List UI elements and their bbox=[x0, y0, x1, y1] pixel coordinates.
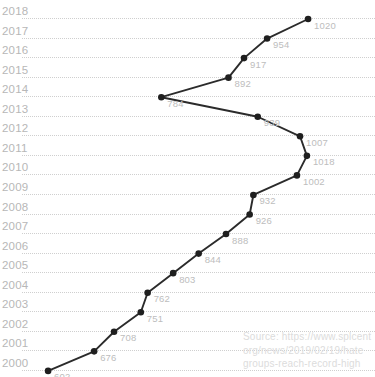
value-label-2017: 954 bbox=[273, 40, 289, 50]
grid-row-2016: 2016 bbox=[0, 38, 375, 58]
hate-groups-line-chart: 2018201720162015201420132012201120102009… bbox=[0, 0, 375, 377]
value-label-2000: 602 bbox=[54, 372, 70, 377]
value-label-2012: 1007 bbox=[306, 138, 328, 148]
year-label-2017: 2017 bbox=[2, 25, 28, 37]
year-label-2015: 2015 bbox=[2, 64, 28, 76]
value-label-2001: 676 bbox=[100, 353, 116, 363]
value-label-2007: 888 bbox=[232, 236, 248, 246]
grid-row-2003: 2003 bbox=[0, 292, 375, 312]
grid-row-2008: 2008 bbox=[0, 195, 375, 215]
grid-row-2007: 2007 bbox=[0, 214, 375, 234]
year-label-2011: 2011 bbox=[2, 142, 28, 154]
value-label-2014: 784 bbox=[167, 99, 183, 109]
year-label-2018: 2018 bbox=[2, 5, 28, 17]
grid-row-2005: 2005 bbox=[0, 253, 375, 273]
grid-row-2002: 2002 bbox=[0, 312, 375, 332]
value-label-2003: 751 bbox=[147, 314, 163, 324]
year-label-2005: 2005 bbox=[2, 259, 28, 271]
year-label-2003: 2003 bbox=[2, 298, 28, 310]
source-line-2: org/news/2019/02/19/hate bbox=[243, 344, 375, 358]
grid-row-2012: 2012 bbox=[0, 116, 375, 136]
year-label-2004: 2004 bbox=[2, 279, 28, 291]
grid-row-2018: 2018 bbox=[0, 0, 375, 19]
year-label-2009: 2009 bbox=[2, 181, 28, 193]
value-label-2018: 1020 bbox=[314, 21, 336, 31]
year-label-2016: 2016 bbox=[2, 44, 28, 56]
value-label-2015: 892 bbox=[235, 79, 251, 89]
year-label-2007: 2007 bbox=[2, 220, 28, 232]
source-line-3: groups-reach-record-high bbox=[243, 357, 375, 371]
grid-row-2013: 2013 bbox=[0, 97, 375, 117]
value-label-2006: 844 bbox=[205, 255, 221, 265]
year-label-2014: 2014 bbox=[2, 83, 28, 95]
value-label-2010: 1002 bbox=[303, 177, 325, 187]
value-label-2011: 1018 bbox=[313, 157, 335, 167]
grid-row-2014: 2014 bbox=[0, 77, 375, 97]
value-label-2008: 926 bbox=[256, 216, 272, 226]
value-label-2005: 803 bbox=[179, 275, 195, 285]
source-line-1: Source: https://www.splcent bbox=[243, 330, 375, 344]
year-label-2012: 2012 bbox=[2, 122, 28, 134]
value-label-2013: 939 bbox=[264, 118, 280, 128]
grid-row-2006: 2006 bbox=[0, 234, 375, 254]
year-label-2013: 2013 bbox=[2, 103, 28, 115]
value-label-2002: 708 bbox=[120, 333, 136, 343]
value-label-2009: 932 bbox=[259, 196, 275, 206]
year-label-2010: 2010 bbox=[2, 161, 28, 173]
year-label-2002: 2002 bbox=[2, 318, 28, 330]
value-label-2016: 917 bbox=[250, 60, 266, 70]
year-label-2008: 2008 bbox=[2, 201, 28, 213]
value-label-2004: 762 bbox=[154, 294, 170, 304]
year-label-2001: 2001 bbox=[2, 337, 28, 349]
year-label-2006: 2006 bbox=[2, 240, 28, 252]
grid-row-2015: 2015 bbox=[0, 58, 375, 78]
source-citation: Source: https://www.splcentorg/news/2019… bbox=[243, 330, 375, 371]
year-label-2000: 2000 bbox=[2, 357, 28, 369]
